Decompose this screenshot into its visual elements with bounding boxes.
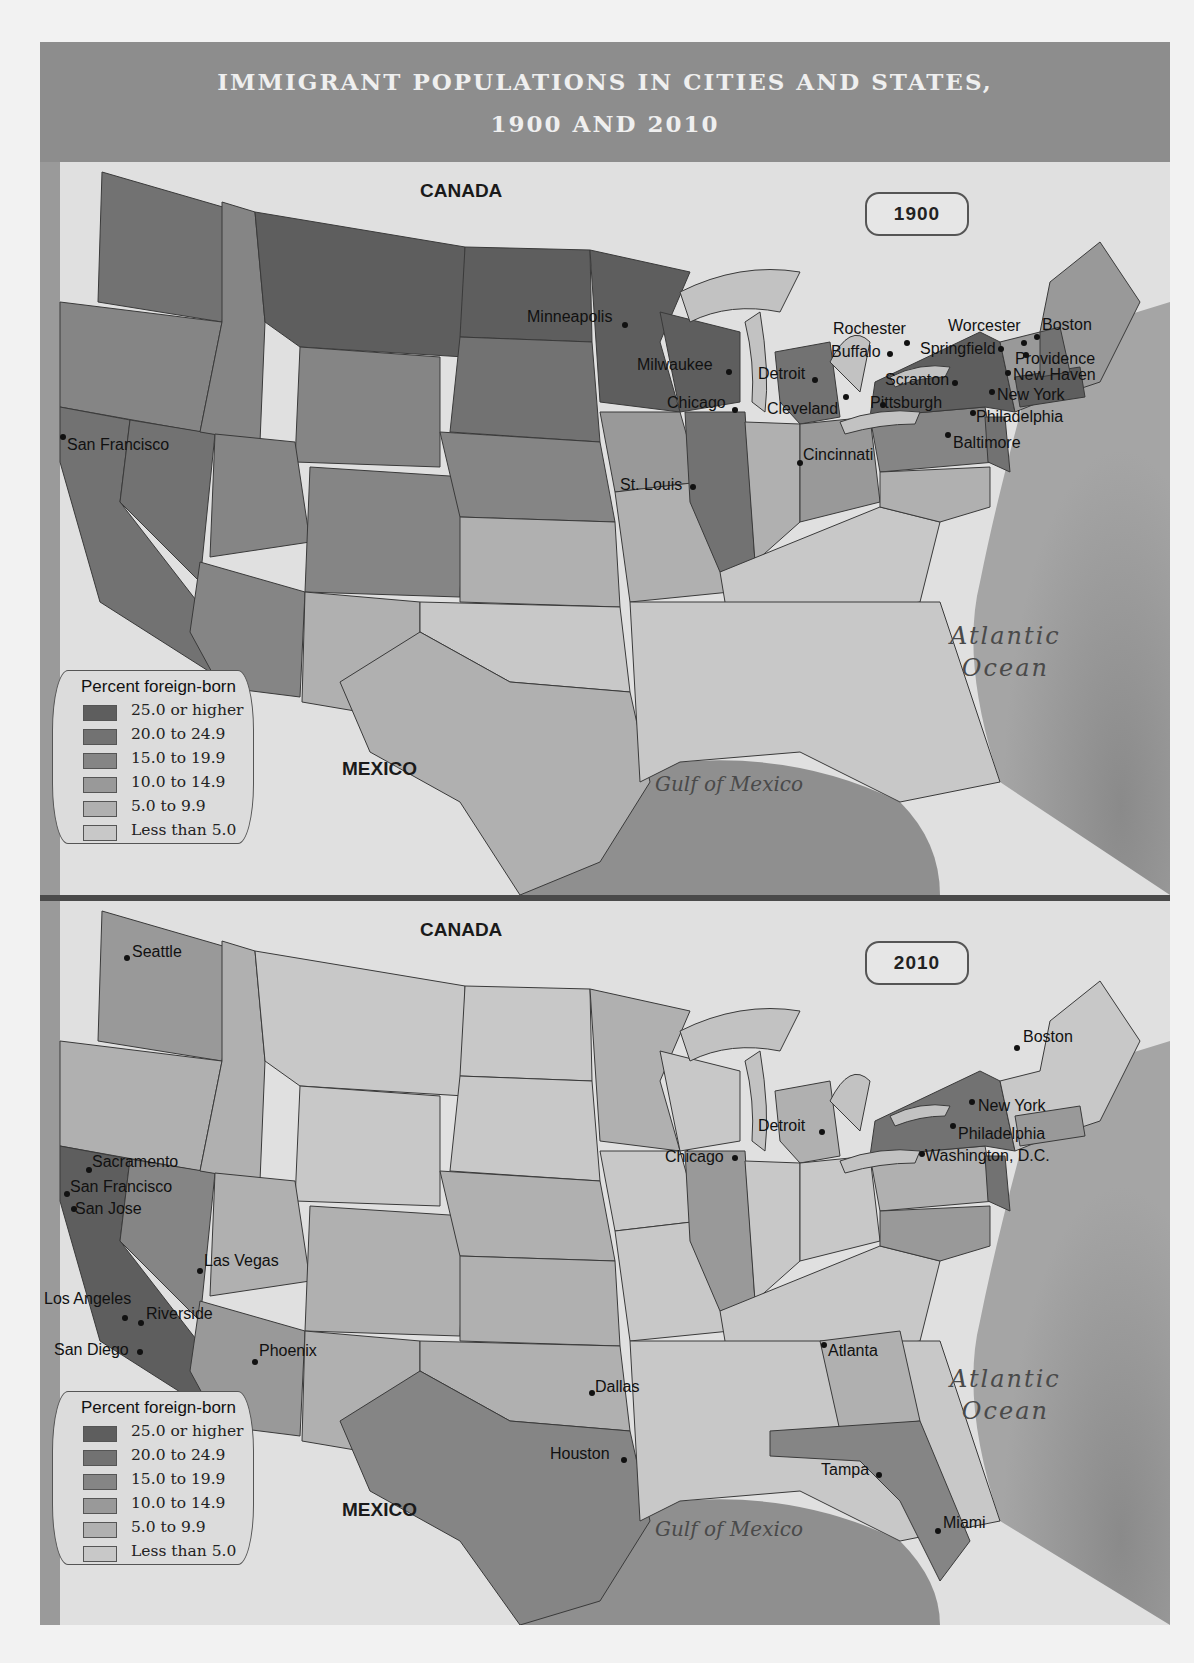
- legend-swatch: [83, 1498, 117, 1514]
- city-label: Washington, D.C.: [925, 1147, 1050, 1165]
- city-dot: [622, 322, 628, 328]
- legend-label: 20.0 to 24.9: [131, 1446, 225, 1464]
- label-gulf-of-mexico: Gulf of Mexico: [655, 1517, 803, 1541]
- city-label: Miami: [943, 1514, 986, 1532]
- legend-swatch: [83, 1474, 117, 1490]
- legend-swatch: [83, 729, 117, 745]
- city-label: Tampa: [821, 1461, 869, 1479]
- city-label: Philadelphia: [958, 1125, 1045, 1143]
- city-label: San Francisco: [70, 1178, 172, 1196]
- legend-swatch: [83, 825, 117, 841]
- city-dot: [124, 955, 130, 961]
- legend-label: 25.0 or higher: [131, 1422, 244, 1440]
- city-label: Boston: [1042, 316, 1092, 334]
- city-dot: [969, 1099, 975, 1105]
- city-dot: [904, 340, 910, 346]
- city-label: Cincinnati: [803, 446, 873, 464]
- city-dot: [122, 1315, 128, 1321]
- city-label: Pittsburgh: [870, 394, 942, 412]
- legend-swatch: [83, 801, 117, 817]
- title-band: IMMIGRANT POPULATIONS IN CITIES AND STAT…: [40, 42, 1170, 162]
- figure-frame: IMMIGRANT POPULATIONS IN CITIES AND STAT…: [40, 42, 1170, 1625]
- city-dot: [1021, 340, 1027, 346]
- city-dot: [821, 1342, 827, 1348]
- city-label: Baltimore: [953, 434, 1021, 452]
- city-label: Seattle: [132, 943, 182, 961]
- city-dot: [252, 1359, 258, 1365]
- city-dot: [621, 1457, 627, 1463]
- city-label: Worcester: [948, 317, 1021, 335]
- city-label: New Haven: [1013, 366, 1096, 384]
- legend-label: 15.0 to 19.9: [131, 1470, 225, 1488]
- city-label: Houston: [550, 1445, 610, 1463]
- city-label: Detroit: [758, 1117, 805, 1135]
- city-dot: [732, 1155, 738, 1161]
- city-dot: [1014, 1045, 1020, 1051]
- city-dot: [726, 369, 732, 375]
- legend-2010: Percent foreign-born 25.0 or higher 20.0…: [52, 1391, 254, 1565]
- legend-title: Percent foreign-born: [81, 1398, 236, 1418]
- city-label: St. Louis: [620, 476, 682, 494]
- city-dot: [887, 351, 893, 357]
- city-dot: [812, 377, 818, 383]
- legend-label: 20.0 to 24.9: [131, 725, 225, 743]
- legend-swatch: [83, 1546, 117, 1562]
- legend-label: 15.0 to 19.9: [131, 749, 225, 767]
- legend-label: 5.0 to 9.9: [131, 797, 206, 815]
- legend-swatch: [83, 777, 117, 793]
- city-dot: [945, 432, 951, 438]
- city-label: Springfield: [920, 340, 996, 358]
- legend-label: 10.0 to 14.9: [131, 1494, 225, 1512]
- city-label: Cleveland: [767, 400, 838, 418]
- legend-label: 25.0 or higher: [131, 701, 244, 719]
- year-badge-1900: 1900: [865, 192, 969, 236]
- city-dot: [1034, 334, 1040, 340]
- city-dot: [989, 389, 995, 395]
- legend-label: 5.0 to 9.9: [131, 1518, 206, 1536]
- city-label: San Diego: [54, 1341, 129, 1359]
- city-dot: [1005, 370, 1011, 376]
- city-dot: [843, 394, 849, 400]
- city-label: Boston: [1023, 1028, 1073, 1046]
- map-1900: CANADA MEXICO Atlantic Ocean Gulf of Mex…: [40, 162, 1170, 895]
- label-atlantic-ocean: Atlantic Ocean: [950, 620, 1061, 684]
- legend-swatch: [83, 705, 117, 721]
- year-badge-2010: 2010: [865, 941, 969, 985]
- city-dot: [998, 346, 1004, 352]
- city-label: New York: [997, 386, 1065, 404]
- label-ocean: Ocean: [950, 1395, 1061, 1427]
- city-label: Phoenix: [259, 1342, 317, 1360]
- city-dot: [60, 434, 66, 440]
- city-label: Philadelphia: [976, 408, 1063, 426]
- city-label: Scranton: [885, 371, 949, 389]
- city-label: Rochester: [833, 320, 906, 338]
- city-label: San Jose: [75, 1200, 142, 1218]
- legend-1900: Percent foreign-born 25.0 or higher 20.0…: [52, 670, 254, 844]
- legend-swatch: [83, 1426, 117, 1442]
- city-label: Milwaukee: [637, 356, 713, 374]
- label-gulf-of-mexico: Gulf of Mexico: [655, 772, 803, 796]
- legend-swatch: [83, 1450, 117, 1466]
- legend-swatch: [83, 753, 117, 769]
- city-dot: [138, 1320, 144, 1326]
- city-dot: [690, 484, 696, 490]
- city-dot: [197, 1268, 203, 1274]
- legend-swatch: [83, 1522, 117, 1538]
- label-canada: CANADA: [420, 919, 502, 941]
- label-canada: CANADA: [420, 180, 502, 202]
- city-dot: [935, 1528, 941, 1534]
- city-dot: [950, 1123, 956, 1129]
- city-label: Riverside: [146, 1305, 213, 1323]
- city-dot: [137, 1349, 143, 1355]
- city-dot: [732, 407, 738, 413]
- city-dot: [819, 1129, 825, 1135]
- figure-title-line1: IMMIGRANT POPULATIONS IN CITIES AND STAT…: [40, 68, 1170, 95]
- city-label: Chicago: [665, 1148, 724, 1166]
- city-label: Los Angeles: [44, 1290, 131, 1308]
- city-label: Chicago: [667, 394, 726, 412]
- legend-label: Less than 5.0: [131, 1542, 236, 1560]
- city-label: San Francisco: [67, 436, 169, 454]
- city-dot: [952, 380, 958, 386]
- city-label: Sacramento: [92, 1153, 178, 1171]
- figure-title-line2: 1900 AND 2010: [40, 110, 1170, 137]
